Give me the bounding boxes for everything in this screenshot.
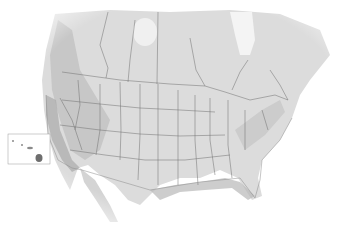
edge-fade [0,0,341,233]
hawaii-inset [8,134,50,164]
north-america-map [0,0,341,233]
